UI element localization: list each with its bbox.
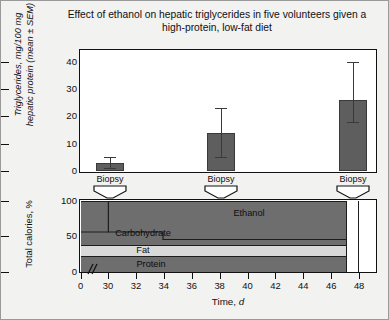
band-label-fat: Fat xyxy=(136,245,149,255)
carbohydrate-ethanol-step-boundary xyxy=(81,201,347,246)
bottom-y-ticklabel-50: 50 xyxy=(51,230,77,241)
x-ticklabel-46: 46 xyxy=(318,280,344,291)
top-y-ticklabel-10: 10 xyxy=(53,138,77,149)
x-ticklabel-42: 42 xyxy=(262,280,288,291)
x-ticklabel-36: 36 xyxy=(179,280,205,291)
top-y-ticklabel-20: 20 xyxy=(53,110,77,121)
band-label-protein: Protein xyxy=(136,259,165,269)
bottom-chart-y-axis-label: Total calories, % xyxy=(24,189,34,279)
errorbar-line-day30 xyxy=(110,157,111,168)
biopsy-label-day48: Biopsy xyxy=(328,174,378,184)
top-y-label-line2: hepatic protein (mean ± SEM) xyxy=(24,0,36,135)
x-tick-42 xyxy=(275,273,276,279)
x-tick-36 xyxy=(192,273,193,279)
x-tick-46 xyxy=(331,273,332,279)
x-axis-label-unit: d xyxy=(239,296,244,307)
x-tick-0 xyxy=(81,273,82,279)
x-ticklabel-30: 30 xyxy=(95,280,121,291)
errorbar-cap-upper-day48 xyxy=(347,62,359,63)
x-tick-38 xyxy=(220,273,221,279)
top-y-ticklabel-40: 40 xyxy=(53,56,77,67)
x-tick-34 xyxy=(164,273,165,279)
top-y-ticklabel-0: 0 xyxy=(53,165,77,176)
top-y-tick-10 xyxy=(1,144,9,145)
top-y-ticklabel-30: 30 xyxy=(53,83,77,94)
biopsy-label-day30: Biopsy xyxy=(85,174,135,184)
x-ticklabel-44: 44 xyxy=(290,280,316,291)
top-y-tick-40 xyxy=(1,62,9,63)
x-tick-40 xyxy=(248,273,249,279)
top-y-tick-20 xyxy=(1,116,9,117)
top-y-label-line1: Triglycerides, mg/100 mg xyxy=(13,0,25,135)
x-ticklabel-38: 38 xyxy=(207,280,233,291)
bottom-y-tick-50 xyxy=(1,236,9,237)
x-tick-44 xyxy=(303,273,304,279)
biopsy-arrow-day48 xyxy=(336,185,370,199)
band-label-ethanol: Ethanol xyxy=(233,208,264,218)
top-y-tick-0 xyxy=(1,171,9,172)
biopsy-arrow-day38 xyxy=(204,185,238,199)
errorbar-line-day38 xyxy=(221,108,222,157)
x-axis-label-text: Time, xyxy=(212,296,239,307)
errorbar-cap-lower-day48 xyxy=(347,122,359,123)
errorbar-cap-upper-day30 xyxy=(104,157,116,158)
band-fat xyxy=(81,245,346,257)
biopsy-arrow-day30 xyxy=(93,185,127,199)
x-axis-break-mark xyxy=(85,263,99,275)
errorbar-cap-upper-day38 xyxy=(215,108,227,109)
bottom-y-ticklabel-0: 0 xyxy=(51,266,77,277)
figure-title: Effect of ethanol on hepatic triglycerid… xyxy=(57,8,377,34)
band-label-carbohydrate: Carbohydrate xyxy=(115,228,171,238)
x-tick-48 xyxy=(359,273,360,279)
x-ticklabel-34: 34 xyxy=(151,280,177,291)
top-y-tick-30 xyxy=(1,89,9,90)
x-tick-32 xyxy=(136,273,137,279)
bottom-y-ticklabel-100: 100 xyxy=(51,195,77,206)
x-ticklabel-0: 0 xyxy=(68,280,94,291)
errorbar-cap-lower-day30 xyxy=(104,168,116,169)
post-treatment-gap xyxy=(346,201,359,273)
errorbar-cap-lower-day38 xyxy=(215,157,227,158)
x-tick-30 xyxy=(108,273,109,279)
biopsy-label-day38: Biopsy xyxy=(196,174,246,184)
bottom-y-tick-0 xyxy=(1,272,9,273)
x-ticklabel-40: 40 xyxy=(235,280,261,291)
bottom-y-tick-100 xyxy=(1,201,9,202)
errorbar-line-day48 xyxy=(353,62,354,123)
figure-panel: Effect of ethanol on hepatic triglycerid… xyxy=(0,0,389,320)
band-protein xyxy=(81,256,346,272)
x-ticklabel-32: 32 xyxy=(123,280,149,291)
x-ticklabel-48: 48 xyxy=(346,280,372,291)
x-axis-label: Time, d xyxy=(79,296,377,307)
top-chart-y-axis-label: Triglycerides, mg/100 mg hepatic protein… xyxy=(13,0,36,135)
